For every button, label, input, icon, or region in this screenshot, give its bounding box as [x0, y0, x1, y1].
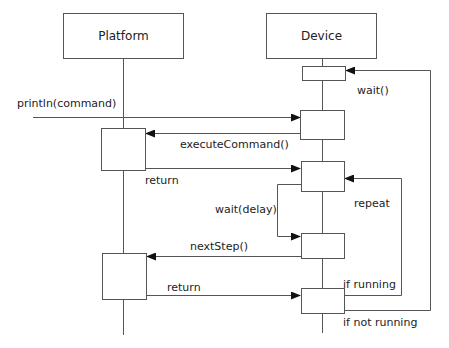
device-activation-2 — [302, 162, 345, 192]
wait-delay-arrow — [278, 185, 302, 237]
execute-command-label: executeCommand() — [180, 138, 289, 151]
println-label: println(command) — [17, 97, 116, 110]
platform-activation-1 — [102, 129, 146, 171]
sequence-diagram-canvas — [0, 0, 449, 348]
return-label-2: return — [167, 281, 201, 294]
wait-delay-label: wait(delay) — [215, 203, 277, 216]
return-label-1: return — [145, 174, 179, 187]
device-activation-3 — [302, 234, 345, 259]
if-not-running-label: if not running — [343, 316, 417, 329]
device-label: Device — [266, 29, 377, 43]
next-step-label: nextStep() — [190, 240, 248, 253]
repeat-label: repeat — [354, 197, 390, 210]
device-activation-4 — [302, 289, 345, 314]
if-running-label: if running — [343, 278, 396, 291]
wait-label: wait() — [357, 84, 389, 97]
wait-loop-arrow — [344, 71, 431, 311]
device-activation-1 — [301, 111, 345, 140]
platform-label: Platform — [63, 29, 184, 43]
platform-activation-2 — [103, 254, 147, 300]
device-activation-wait — [303, 67, 346, 81]
